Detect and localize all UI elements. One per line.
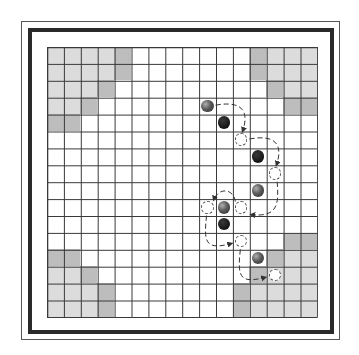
empty-target-hole-icon[interactable] (269, 269, 282, 282)
gray-marble-icon[interactable] (218, 201, 231, 214)
empty-target-hole-icon[interactable] (235, 133, 248, 146)
black-marble-icon[interactable] (252, 150, 265, 163)
gray-marble-icon[interactable] (201, 100, 214, 113)
empty-target-hole-icon[interactable] (235, 201, 248, 214)
game-board[interactable] (47, 47, 317, 317)
empty-target-hole-icon[interactable] (201, 201, 214, 214)
gray-marble-icon[interactable] (252, 184, 265, 197)
empty-target-hole-icon[interactable] (269, 167, 282, 180)
